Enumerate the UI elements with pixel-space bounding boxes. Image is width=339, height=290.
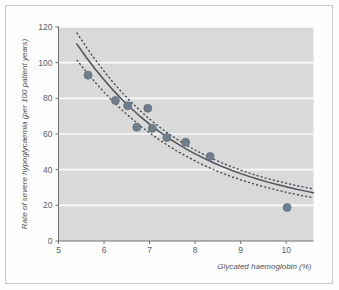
plot-wrapper: 0204060801001205678910Glycated haemoglob… <box>0 0 339 290</box>
x-axis-title: Glycated haemoglobin (%) <box>217 262 312 271</box>
x-tick-label-10: 10 <box>281 245 291 255</box>
x-tick-label-9: 9 <box>238 245 243 255</box>
y-tick-label-20: 20 <box>43 200 53 210</box>
x-axis: 5678910 <box>56 241 313 255</box>
y-tick-label-80: 80 <box>43 93 53 103</box>
x-tick-label-6: 6 <box>102 245 107 255</box>
data-point <box>84 71 92 79</box>
data-point <box>124 102 132 110</box>
data-point <box>148 124 156 132</box>
data-point <box>182 138 190 146</box>
y-tick-label-0: 0 <box>48 236 53 246</box>
data-point <box>163 134 171 142</box>
data-point <box>206 152 214 160</box>
y-tick-label-120: 120 <box>38 22 52 32</box>
x-tick-label-7: 7 <box>147 245 152 255</box>
x-tick-label-8: 8 <box>193 245 198 255</box>
data-point <box>111 96 119 104</box>
y-tick-label-40: 40 <box>43 165 53 175</box>
y-tick-label-60: 60 <box>43 129 53 139</box>
data-point <box>283 203 291 211</box>
scatter-chart: 0204060801001205678910Glycated haemoglob… <box>0 0 339 290</box>
y-axis: 020406080100120 <box>38 22 58 246</box>
x-tick-label-5: 5 <box>56 245 61 255</box>
data-point <box>133 123 141 131</box>
figure-canvas: 0204060801001205678910Glycated haemoglob… <box>0 0 339 290</box>
y-axis-title: Rate of severe hypoglycaemia (per 100 pa… <box>20 39 29 230</box>
y-tick-label-100: 100 <box>38 58 52 68</box>
data-point <box>144 104 152 112</box>
